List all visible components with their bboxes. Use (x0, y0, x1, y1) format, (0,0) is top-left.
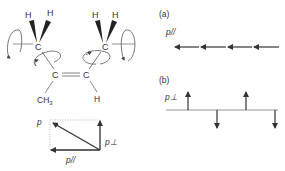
rotation-orbit-left-icon (7, 30, 33, 58)
atom-c-double-left: C (52, 70, 59, 80)
vibration-diagram: H H H H C C C C CH3 H (0, 0, 285, 171)
atom-c-methyl-left: C (35, 42, 42, 52)
panel-b-label: (b) (159, 75, 170, 85)
rotation-orbit-right-icon (112, 30, 135, 61)
atom-h-left-2: H (47, 8, 54, 18)
bond-ch3 (45, 81, 53, 93)
atom-h-right-1: H (92, 10, 99, 20)
wedge-bond-right-1 (95, 20, 103, 43)
substituent-ch3: CH3 (37, 95, 53, 106)
p-label: p (36, 117, 42, 127)
p-perp-label: p⊥ (104, 137, 117, 147)
p-vector-arrow (53, 123, 100, 150)
atom-h-right-2: H (112, 10, 119, 20)
torsion-orbit-right-icon (83, 51, 110, 65)
panel-a-p-parallel-label: p// (165, 27, 177, 37)
wedge-bond-left-2 (39, 20, 51, 43)
bond-right (89, 52, 101, 69)
atom-h-left-1: H (25, 10, 32, 20)
atom-c-methyl-right: C (102, 42, 109, 52)
torsion-orbit-left-icon (34, 51, 60, 66)
vector-decomposition: p p⊥ p// (36, 117, 117, 165)
p-parallel-label: p// (65, 155, 77, 165)
substituent-h: H (94, 94, 100, 104)
panel-a-label: (a) (159, 9, 170, 19)
bond-left (42, 52, 54, 69)
atom-c-double-right: C (83, 70, 90, 80)
bond-h (90, 81, 97, 92)
panel-a: (a) p// (159, 9, 279, 47)
molecule: H H H H C C C C CH3 H (7, 8, 135, 106)
panel-b-p-perp-label: p⊥ (164, 92, 177, 102)
wedge-bond-left-1 (29, 20, 37, 43)
panel-b: (b) p⊥ (159, 75, 278, 128)
wedge-bond-right-2 (106, 20, 117, 43)
